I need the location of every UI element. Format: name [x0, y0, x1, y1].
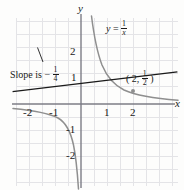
equation-fraction: 1 x — [121, 20, 127, 37]
point-label-denominator: 2 — [142, 78, 148, 87]
hyperbola-branch-positive — [92, 16, 179, 100]
ytick-label-neg1: -1 — [66, 124, 75, 135]
x-axis-label: x — [175, 98, 180, 109]
slope-annotation-numerator: 1 — [53, 66, 59, 74]
point-label-open: ( — [126, 74, 129, 84]
plot-canvas — [0, 0, 184, 190]
curve-equation-label: y = 1 x — [106, 20, 127, 37]
equation-numerator: 1 — [121, 20, 127, 28]
slope-annotation-fraction: 1 4 — [53, 66, 59, 83]
grid-lines — [16, 18, 178, 186]
slope-annotation-sign: − — [44, 70, 50, 80]
point-label-x: 2, — [132, 74, 140, 84]
point-label-close: ) — [150, 74, 153, 84]
xtick-label-neg1: -1 — [49, 107, 58, 118]
graph-figure: -2 -1 1 2 2 1 -1 -2 x y y = 1 x ( 2, 1 2… — [0, 0, 184, 190]
xtick-label-neg2: -2 — [23, 107, 32, 118]
point-label-numerator: 1 — [142, 70, 148, 78]
equation-lhs: y — [106, 24, 110, 34]
y-axis-label: y — [78, 3, 83, 14]
ytick-label-1: 1 — [71, 72, 77, 83]
ytick-label-2: 2 — [70, 46, 76, 57]
slope-annotation-denominator: 4 — [53, 74, 59, 83]
point-label-fraction: 1 2 — [142, 70, 148, 87]
xtick-label-1: 1 — [104, 107, 110, 118]
slope-annotation-text: Slope is — [10, 70, 42, 80]
xtick-label-2: 2 — [130, 107, 136, 118]
tangency-point-marker — [131, 89, 135, 93]
equation-denominator: x — [121, 28, 127, 37]
slope-annotation: Slope is − 1 4 — [10, 66, 59, 83]
point-label: ( 2, 1 2 ) — [126, 70, 154, 87]
equation-equals: = — [113, 24, 119, 34]
ytick-label-neg2: -2 — [66, 150, 75, 161]
